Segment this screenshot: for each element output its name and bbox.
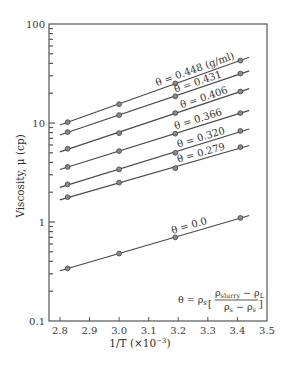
series-line bbox=[60, 145, 249, 200]
theta-formula: θ = ρs [ ρslurry − ρL ρs − ρs ] bbox=[178, 287, 265, 314]
x-tick-label: 3.0 bbox=[111, 325, 127, 336]
data-point bbox=[238, 71, 243, 76]
data-point bbox=[117, 251, 122, 256]
svg-text:[: [ bbox=[208, 298, 212, 309]
data-point bbox=[65, 165, 70, 170]
data-point bbox=[65, 120, 70, 125]
line-labels: θ = 0.448 (g/ml)θ = 0.431θ = 0.406θ = 0.… bbox=[154, 50, 236, 236]
svg-text:θ = ρs: θ = ρs bbox=[178, 294, 207, 307]
axes: 2.82.93.03.13.23.33.43.50.1110100 bbox=[26, 19, 275, 337]
data-point bbox=[117, 131, 122, 136]
x-tick-label: 3.5 bbox=[259, 325, 275, 336]
svg-text:ρs − ρs: ρs − ρs bbox=[224, 301, 256, 314]
series-line bbox=[60, 129, 249, 188]
x-tick-label: 3.4 bbox=[229, 325, 245, 336]
data-point bbox=[238, 111, 243, 116]
y-tick-label: 0.1 bbox=[29, 316, 45, 327]
data-point bbox=[117, 113, 122, 118]
data-point bbox=[117, 149, 122, 154]
x-axis-title: 1/T (×10−3) bbox=[109, 337, 170, 349]
data-point bbox=[238, 145, 243, 150]
y-tick-label: 1 bbox=[39, 217, 45, 228]
data-point bbox=[238, 89, 243, 94]
data-point bbox=[238, 216, 243, 221]
viscosity-chart: 2.82.93.03.13.23.33.43.50.1110100 θ = 0.… bbox=[0, 0, 286, 367]
data-point bbox=[117, 102, 122, 107]
svg-text:]: ] bbox=[259, 298, 263, 309]
plot-frame bbox=[49, 24, 267, 321]
svg-text:ρslurry − ρL: ρslurry − ρL bbox=[215, 287, 265, 300]
data-point bbox=[173, 166, 178, 171]
data-point bbox=[65, 146, 70, 151]
x-tick-label: 2.8 bbox=[52, 325, 68, 336]
y-tick-label: 100 bbox=[26, 19, 45, 30]
y-axis-title: Viscosity, μ (cp) bbox=[14, 134, 26, 218]
x-tick-label: 2.9 bbox=[82, 325, 98, 336]
x-tick-label: 3.3 bbox=[200, 325, 216, 336]
x-tick-label: 3.2 bbox=[170, 325, 186, 336]
series-line bbox=[60, 215, 249, 270]
x-tick-label: 3.1 bbox=[141, 325, 157, 336]
data-point bbox=[173, 131, 178, 136]
series-line bbox=[60, 110, 249, 169]
data-point bbox=[65, 182, 70, 187]
data-point bbox=[65, 195, 70, 200]
data-point bbox=[238, 129, 243, 134]
data-point bbox=[173, 111, 178, 116]
data-point bbox=[117, 180, 122, 185]
data-point bbox=[65, 266, 70, 271]
data-point bbox=[238, 58, 243, 63]
data-point bbox=[65, 130, 70, 135]
data-point bbox=[117, 167, 122, 172]
y-tick-label: 10 bbox=[32, 118, 45, 129]
